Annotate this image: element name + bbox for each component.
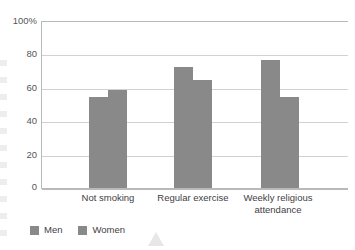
y-axis-labels: 100% 80 60 40 20 0 (0, 0, 37, 250)
bar-men-not-smoking (89, 97, 108, 188)
legend-item-men: Men (30, 225, 62, 235)
bar-chart-figure: 100% 80 60 40 20 0 Not smoking Regular e… (0, 0, 355, 250)
bar-men-weekly-religious-attendance (261, 60, 280, 188)
bar-group-weekly-religious-attendance (261, 21, 299, 188)
bar-group-not-smoking (89, 21, 127, 188)
bar-women-regular-exercise (193, 80, 212, 188)
x-tick-label-regular-exercise: Regular exercise (148, 192, 238, 204)
watermark-artifact (148, 232, 164, 246)
x-tick-label-weekly-religious-attendance: Weekly religious attendance (238, 192, 318, 215)
legend-item-women: Women (78, 225, 125, 235)
y-tick-label-80: 80 (0, 49, 37, 59)
y-tick-label-100: 100% (0, 16, 37, 26)
legend-label-men: Men (44, 225, 62, 235)
y-tick-label-20: 20 (0, 150, 37, 160)
x-tick-label-not-smoking: Not smoking (63, 192, 153, 204)
bar-women-weekly-religious-attendance (280, 97, 299, 188)
x-axis-labels: Not smoking Regular exercise Weekly reli… (41, 192, 348, 222)
bar-women-not-smoking (108, 90, 127, 188)
legend-swatch-icon-men (30, 226, 39, 235)
y-tick-label-0: 0 (0, 182, 37, 192)
bar-men-regular-exercise (174, 67, 193, 188)
y-tick-label-60: 60 (0, 83, 37, 93)
chart-legend: Men Women (30, 225, 125, 235)
bar-group-regular-exercise (174, 21, 212, 188)
legend-label-women: Women (92, 225, 125, 235)
gridline-0-baseline (42, 188, 348, 190)
legend-swatch-icon-women (78, 226, 87, 235)
bars-layer (41, 21, 348, 188)
y-tick-label-40: 40 (0, 116, 37, 126)
